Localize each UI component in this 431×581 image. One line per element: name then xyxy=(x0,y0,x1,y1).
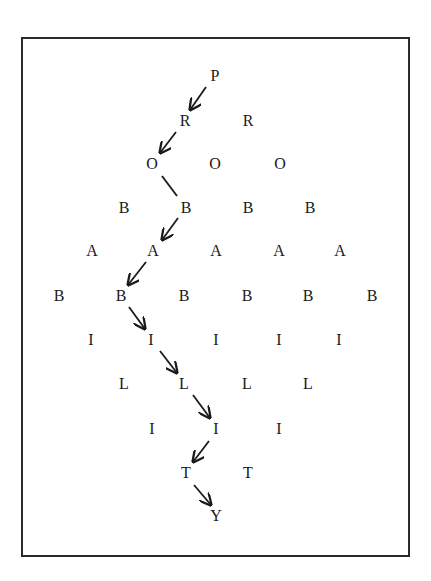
letter-node: I xyxy=(336,332,341,348)
arrow-icon xyxy=(128,262,146,285)
letter-node: I xyxy=(149,421,154,437)
letter-node: T xyxy=(181,465,191,481)
letter-node: L xyxy=(303,376,313,392)
letter-node: P xyxy=(211,68,220,84)
letter-node: I xyxy=(213,332,218,348)
letter-node: O xyxy=(146,156,158,172)
letter-node: B xyxy=(303,288,314,304)
letter-node: B xyxy=(54,288,65,304)
letter-node: I xyxy=(276,332,281,348)
letter-node: O xyxy=(274,156,286,172)
letter-node: B xyxy=(305,200,316,216)
arrow-icon xyxy=(193,441,209,462)
letter-node: A xyxy=(210,243,222,259)
arrow-icon xyxy=(162,218,178,240)
letter-node: O xyxy=(209,156,221,172)
letter-node: A xyxy=(334,243,346,259)
letter-node: A xyxy=(86,243,98,259)
letter-node: I xyxy=(148,332,153,348)
letter-node: L xyxy=(242,376,252,392)
arrow-icon xyxy=(160,351,177,373)
letter-node: B xyxy=(181,200,192,216)
letter-node: I xyxy=(213,421,218,437)
letter-node: B xyxy=(179,288,190,304)
letter-node: A xyxy=(147,243,159,259)
letter-node: B xyxy=(116,288,127,304)
letter-node: L xyxy=(119,376,129,392)
arrow-icon xyxy=(194,485,211,505)
letter-node: B xyxy=(119,200,130,216)
letter-node: L xyxy=(179,376,189,392)
letter-node: R xyxy=(180,113,191,129)
letter-node: I xyxy=(88,332,93,348)
letter-node: I xyxy=(276,421,281,437)
letter-node: B xyxy=(367,288,378,304)
arrow-icon xyxy=(193,395,210,418)
letter-node: T xyxy=(243,465,253,481)
letter-node: R xyxy=(243,113,254,129)
connector-line xyxy=(162,176,177,196)
arrow-icon xyxy=(160,132,176,153)
letter-node: B xyxy=(242,288,253,304)
arrow-icon xyxy=(190,87,206,110)
letter-node: B xyxy=(243,200,254,216)
letter-node: Y xyxy=(210,508,222,524)
arrow-icon xyxy=(129,307,145,329)
letter-node: A xyxy=(273,243,285,259)
